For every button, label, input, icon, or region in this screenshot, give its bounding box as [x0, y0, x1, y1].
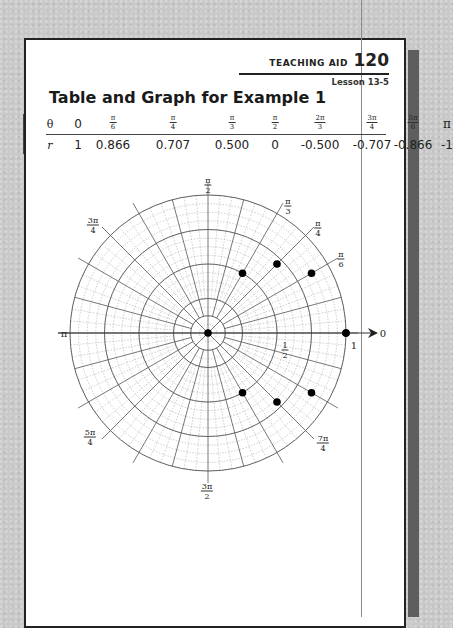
minor-radial	[119, 359, 186, 438]
minor-radial	[240, 345, 337, 380]
minor-radial	[184, 197, 202, 299]
major-radial	[78, 342, 193, 408]
theta-cell: π	[443, 117, 451, 131]
angle-label: π2	[204, 176, 211, 195]
minor-radial	[220, 365, 255, 462]
minor-radial	[242, 309, 344, 327]
minor-radial	[102, 244, 181, 311]
major-radial	[133, 348, 199, 463]
minor-radial	[71, 321, 174, 330]
minor-radial	[242, 339, 344, 357]
major-radial	[217, 348, 283, 463]
minor-radial	[230, 227, 297, 306]
angle-label: π4	[314, 219, 321, 238]
angle-label: 3π4	[87, 216, 99, 235]
angle-label: 3π2	[201, 482, 213, 501]
minor-radial	[161, 365, 196, 462]
data-point	[239, 269, 247, 277]
data-point	[342, 329, 350, 337]
minor-radial	[78, 286, 175, 321]
r-cell: -1	[441, 138, 453, 152]
data-point	[308, 269, 316, 277]
minor-radial	[220, 203, 255, 300]
major-radial	[223, 342, 338, 408]
major-radial	[78, 258, 193, 324]
minor-radial	[196, 196, 205, 299]
minor-radial	[196, 367, 205, 470]
minor-radial	[234, 244, 313, 311]
major-radial	[223, 258, 338, 324]
minor-radial	[119, 227, 186, 306]
minor-radial	[71, 336, 174, 345]
axis-zero-label: 0	[380, 328, 386, 339]
data-point	[308, 389, 316, 397]
radius-label: 1	[351, 340, 357, 351]
major-radial	[133, 203, 199, 318]
minor-radial	[211, 367, 220, 470]
radius-label: 12	[281, 341, 288, 360]
data-point	[239, 389, 247, 397]
data-point	[273, 398, 281, 406]
angle-label: 5π4	[84, 428, 96, 447]
minor-radial	[211, 196, 220, 299]
minor-radial	[240, 286, 337, 321]
data-point	[273, 260, 281, 268]
minor-radial	[102, 355, 181, 422]
angle-label: π3	[284, 197, 291, 216]
angle-label: π6	[337, 250, 344, 269]
minor-radial	[161, 203, 196, 300]
minor-radial	[242, 321, 345, 330]
major-radial	[217, 203, 283, 318]
data-point	[204, 329, 212, 337]
minor-radial	[234, 355, 313, 422]
angle-label: π	[61, 328, 68, 339]
minor-radial	[78, 345, 175, 380]
minor-radial	[230, 359, 297, 438]
angle-label: 7π4	[317, 434, 329, 453]
